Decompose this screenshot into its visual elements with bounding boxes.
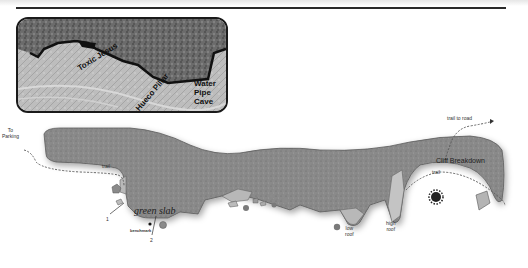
boulder <box>112 184 121 193</box>
label-trail-to-road: trail to road <box>447 115 472 121</box>
label-benchmark: benchmark <box>130 228 151 234</box>
label-low-roof: low roof <box>345 225 354 237</box>
label-green-slab: green slab <box>134 205 176 216</box>
cliff-outline <box>0 110 528 268</box>
label-cliff-breakdown: Cliff Breakdown <box>436 157 485 164</box>
bush-icon <box>431 192 441 202</box>
header-rule <box>16 7 506 9</box>
label-high-roof: high roof <box>386 220 395 232</box>
label-marker-1: 1 <box>106 216 109 222</box>
cliff-topo-map: To Parking trail trail trail to road Cli… <box>0 110 528 268</box>
aerial-photo-inset: Toxic Jesus Hueco Pillar Water Pipe Cave <box>16 17 228 113</box>
benchmark-icon <box>148 222 151 225</box>
label-marker-2: 2 <box>150 237 153 243</box>
label-water-pipe-cave: Water Pipe Cave <box>194 79 216 106</box>
label-to-parking: To Parking <box>2 127 19 139</box>
page-header-partial <box>0 0 528 6</box>
label-trail-left: trail <box>102 163 110 169</box>
label-trail-right: trail <box>432 169 440 175</box>
